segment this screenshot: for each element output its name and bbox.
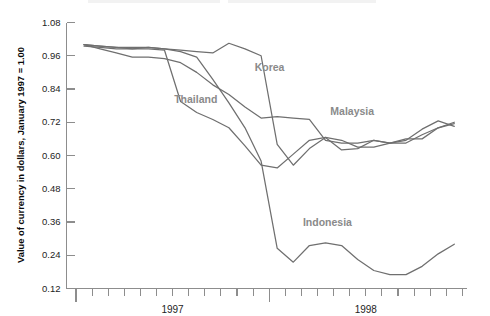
- y-axis-title-text: Value of currency in dollars, January 19…: [15, 47, 26, 263]
- x-year-label-1997: 1997: [161, 304, 184, 315]
- series-line-malaysia: [84, 45, 454, 143]
- y-tick-label: 0.36: [42, 216, 61, 227]
- series-label-malaysia: Malaysia: [330, 105, 374, 117]
- x-year-label-1998: 1998: [355, 304, 378, 315]
- chart-canvas: Value of currency in dollars, January 19…: [0, 0, 490, 316]
- y-tick-label: 0.72: [42, 116, 61, 127]
- series-label-korea: Korea: [255, 61, 285, 73]
- series-label-indonesia: Indonesia: [303, 216, 352, 228]
- y-tick-label: 1.08: [42, 17, 61, 28]
- series-line-indonesia: [84, 46, 454, 275]
- series-lines: [84, 43, 454, 274]
- y-axis-ticks: 1.080.960.840.720.600.480.360.240.12: [42, 17, 75, 294]
- y-axis-title: Value of currency in dollars, January 19…: [15, 47, 26, 263]
- currency-chart-figure: Value of currency in dollars, January 19…: [0, 0, 490, 316]
- y-tick-label: 0.96: [42, 50, 61, 61]
- y-tick-label: 0.12: [42, 283, 61, 294]
- y-tick-label: 0.24: [42, 249, 61, 260]
- series-label-thailand: Thailand: [174, 93, 217, 105]
- x-axis-ticks: [76, 289, 462, 302]
- y-tick-label: 0.48: [42, 183, 61, 194]
- x-axis-year-labels: 19971998: [161, 304, 377, 315]
- y-tick-label: 0.60: [42, 150, 61, 161]
- series-inline-labels: KoreaThailandMalaysiaIndonesia: [174, 61, 374, 228]
- y-tick-label: 0.84: [42, 83, 61, 94]
